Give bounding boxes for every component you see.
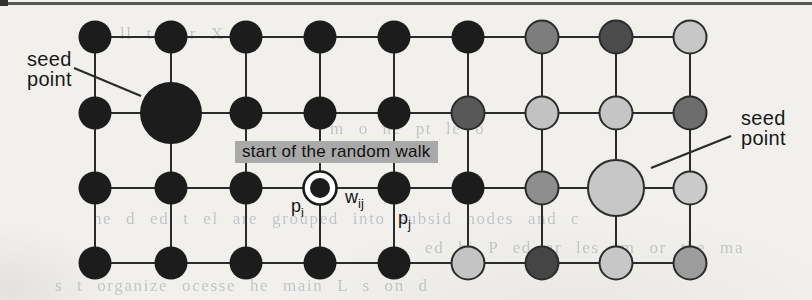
graph-node-r1-c7 xyxy=(526,21,559,54)
graph-node-r4-c1 xyxy=(79,247,112,280)
graph-node-r2-c3 xyxy=(230,97,263,130)
graph-node-r4-c3 xyxy=(230,247,263,280)
seed-label-left-line1: seed xyxy=(27,49,72,69)
wij-subscript: ij xyxy=(358,196,364,211)
graph-node-r2-c6 xyxy=(452,97,485,130)
graph-node-r1-c2 xyxy=(155,21,188,54)
graph-node-r4-c6 xyxy=(452,247,485,280)
seed-node-r3-c8 xyxy=(588,160,644,216)
graph-node-r2-c8 xyxy=(600,97,633,130)
graph-node-r2-c1 xyxy=(79,97,112,130)
graph-node-r2-c4 xyxy=(304,97,337,130)
seed-label-left-line2: point xyxy=(27,69,72,89)
seed-label-right-line2: point xyxy=(741,128,786,148)
graph-node-r3-c6 xyxy=(452,172,485,205)
wij-base: w xyxy=(345,187,358,207)
graph-node-r2-c7 xyxy=(526,97,559,130)
graph-node-r3-c1 xyxy=(79,172,112,205)
seed-label-right-line1: seed xyxy=(741,108,786,128)
figure-random-walk-lattice: ll t c r X om o ne pt le ohe d ed t el a… xyxy=(0,0,812,300)
graph-node-r2-c9 xyxy=(674,97,707,130)
pj-base: p xyxy=(398,208,408,228)
graph-node-r1-c3 xyxy=(230,21,263,54)
seed-pointer-line-left xyxy=(74,68,141,96)
node-label-pi: pi xyxy=(291,196,304,220)
graph-node-r1-c4 xyxy=(304,21,337,54)
graph-node-r3-c3 xyxy=(230,172,263,205)
seed-point-label-right: seed point xyxy=(741,108,786,148)
graph-node-r4-c4 xyxy=(304,247,337,280)
graph-node-r1-c1 xyxy=(79,21,112,54)
seed-node-r2-c2 xyxy=(140,82,202,144)
graph-node-r4-c9 xyxy=(674,247,707,280)
graph-node-r1-c8 xyxy=(600,21,633,54)
graph-node-r1-c9 xyxy=(674,21,707,54)
pi-base: p xyxy=(291,196,301,216)
graph-node-r4-c7 xyxy=(526,247,559,280)
graph-node-r3-c7 xyxy=(526,172,559,205)
graph-node-r1-c6 xyxy=(452,21,485,54)
edge-weight-label-wij: wij xyxy=(345,187,364,211)
pj-subscript: j xyxy=(408,217,411,232)
graph-node-r3-c9 xyxy=(674,172,707,205)
graph-node-r4-c5 xyxy=(378,247,411,280)
graph-node-r3-c5 xyxy=(378,172,411,205)
graph-node-r3-c2 xyxy=(155,172,188,205)
start-of-random-walk-label: start of the random walk xyxy=(235,141,438,163)
graph-node-r4-c8 xyxy=(600,247,633,280)
graph-node-r1-c5 xyxy=(378,21,411,54)
graph-node-r2-c5 xyxy=(378,97,411,130)
node-label-pj: pj xyxy=(398,208,411,232)
start-node-core-r3-c4 xyxy=(310,178,330,198)
seed-point-label-left: seed point xyxy=(27,49,72,89)
pi-subscript: i xyxy=(301,205,304,220)
graph-node-r4-c2 xyxy=(155,247,188,280)
